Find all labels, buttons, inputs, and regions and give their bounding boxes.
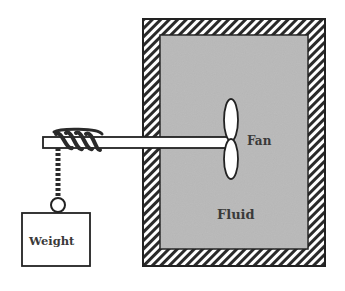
paddle-wheel-work-diagram: Fan Fluid Weight <box>0 0 345 291</box>
weight-label: Weight <box>28 234 75 248</box>
fluid-label: Fluid <box>217 207 255 222</box>
weight <box>22 198 90 266</box>
hook-ring-icon <box>51 198 65 212</box>
fan-label: Fan <box>247 134 272 148</box>
